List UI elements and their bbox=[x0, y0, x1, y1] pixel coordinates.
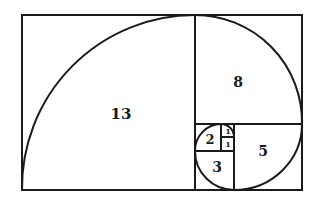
outer-rectangle bbox=[22, 15, 302, 190]
square-label-5: 5 bbox=[258, 144, 268, 158]
fibonacci-spiral-diagram bbox=[0, 0, 319, 200]
square-label-13: 13 bbox=[111, 107, 132, 122]
square-label-2: 2 bbox=[205, 133, 214, 146]
golden-spiral bbox=[22, 15, 302, 190]
square-label-1a: 1 bbox=[225, 127, 231, 135]
square-label-1b: 1 bbox=[225, 140, 231, 148]
square-label-3: 3 bbox=[212, 160, 222, 174]
square-label-8: 8 bbox=[233, 75, 243, 89]
